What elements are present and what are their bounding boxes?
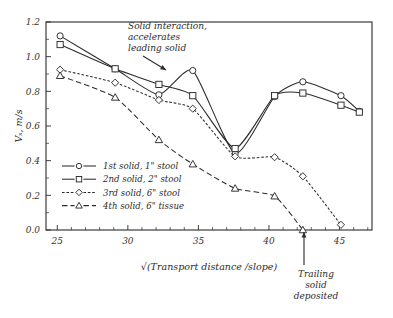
- annotation-text-line: leading solid: [128, 43, 186, 53]
- square-icon: [76, 177, 81, 182]
- diamond-marker: [155, 96, 162, 103]
- triangle-marker: [155, 136, 162, 142]
- square-marker: [338, 102, 344, 108]
- circle-marker: [190, 67, 196, 73]
- square-marker: [232, 145, 238, 151]
- x-axis-title: √(Transport distance /slope): [141, 261, 278, 272]
- plot-frame: [46, 22, 372, 230]
- y-tick-label: 0.0: [26, 225, 41, 235]
- annotation-text-line: Trailing: [298, 269, 334, 279]
- chart-canvas: 0.00.20.40.60.81.01.2 2530354045 Solid i…: [0, 0, 393, 318]
- legend-item-label: 4th solid, 6" tissue: [102, 201, 184, 211]
- chart-figure: 0.00.20.40.60.81.01.2 2530354045 Solid i…: [0, 0, 393, 318]
- square-marker: [190, 93, 196, 99]
- legend-item-label: 2nd solid, 2" stool: [102, 174, 182, 184]
- circle-marker: [300, 79, 306, 85]
- legend-item-2[interactable]: 2nd solid, 2" stool: [62, 174, 182, 184]
- circle-marker: [57, 33, 63, 39]
- square-marker: [156, 81, 162, 87]
- circle-icon: [76, 163, 81, 168]
- legend-item-label: 3rd solid, 6" stool: [103, 188, 180, 198]
- series-1: [57, 33, 362, 157]
- square-marker: [356, 109, 362, 115]
- square-marker: [272, 93, 278, 99]
- triangle-marker: [271, 193, 278, 199]
- plot-area-border: [46, 22, 372, 230]
- triangle-marker: [111, 94, 118, 100]
- y-tick-label: 0.6: [26, 121, 41, 131]
- legend-item-3[interactable]: 3rd solid, 6" stool: [62, 188, 180, 198]
- square-marker: [57, 41, 63, 47]
- y-tick-label: 0.8: [26, 87, 41, 97]
- series-line-2: [60, 45, 359, 149]
- square-marker: [300, 90, 306, 96]
- x-tick-label: 35: [193, 236, 205, 246]
- annotation-text-line: solid: [305, 280, 327, 290]
- y-axis-ticks: 0.00.20.40.60.81.01.2: [26, 17, 51, 235]
- y-axis-title: Vₛ, m/s: [13, 109, 24, 142]
- annotation-text-line: accelerates: [128, 32, 181, 42]
- x-tick-label: 25: [51, 236, 64, 246]
- annotation-text-line: Solid interaction,: [128, 21, 207, 31]
- triangle-marker: [56, 72, 63, 78]
- diamond-marker: [271, 154, 278, 161]
- triangle-icon: [76, 202, 83, 208]
- annotation-text-line: deposited: [294, 291, 339, 301]
- y-tick-label: 0.4: [26, 156, 41, 166]
- triangle-marker: [189, 160, 196, 166]
- x-axis-ticks: 2530354045: [51, 225, 368, 246]
- diamond-marker: [112, 79, 119, 86]
- series-2: [57, 41, 362, 151]
- chart-legend: 1st solid, 1" stool2nd solid, 2" stool3r…: [62, 161, 184, 211]
- legend-item-4[interactable]: 4th solid, 6" tissue: [62, 201, 184, 211]
- series-line-1: [60, 36, 359, 154]
- diamond-icon: [76, 189, 82, 195]
- circle-marker: [338, 93, 344, 99]
- x-tick-label: 30: [122, 236, 134, 246]
- annotation-solid-interaction: Solid interaction,acceleratesleading sol…: [128, 21, 207, 70]
- legend-item-1[interactable]: 1st solid, 1" stool: [62, 161, 178, 171]
- y-tick-label: 1.0: [26, 52, 41, 62]
- y-tick-label: 1.2: [26, 17, 41, 27]
- y-tick-label: 0.2: [26, 191, 41, 201]
- annotation-trailing-solid-deposited: Trailingsoliddeposited: [294, 232, 339, 301]
- square-marker: [112, 66, 118, 72]
- legend-item-label: 1st solid, 1" stool: [103, 161, 178, 171]
- x-tick-label: 45: [333, 236, 346, 246]
- triangle-marker: [231, 185, 238, 191]
- x-tick-label: 40: [262, 236, 275, 246]
